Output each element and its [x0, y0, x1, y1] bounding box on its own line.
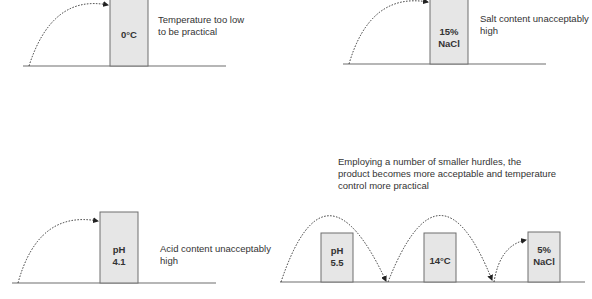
caption-combined: Employing a number of smaller hurdles, t… — [338, 156, 556, 192]
hurdle-diagram — [0, 0, 592, 299]
jump-arc — [494, 240, 526, 282]
hurdle-label-line: NaCl — [528, 256, 560, 268]
hurdle-label-temp: 14°C — [424, 255, 456, 267]
hurdle-label-ph: pH 5.5 — [321, 245, 353, 269]
jump-arc — [18, 220, 98, 283]
hurdle-label-salt-small: 5% NaCl — [528, 244, 560, 268]
hurdle-label-salt: 15% NaCl — [430, 26, 468, 50]
hurdle-label-line: pH — [100, 244, 138, 256]
hurdle-label-line: NaCl — [430, 38, 468, 50]
caption-line: Employing a number of smaller hurdles, t… — [338, 156, 556, 168]
hurdle-label-line: 15% — [430, 26, 468, 38]
jump-arc — [29, 4, 108, 66]
hurdle-label-line: 5% — [528, 244, 560, 256]
hurdle-label-line: pH — [321, 245, 353, 257]
hurdle-label-line: 14°C — [424, 255, 456, 267]
description-line: high — [480, 25, 589, 37]
description-line: Acid content unacceptably — [160, 243, 271, 255]
hurdle-label-line: 4.1 — [100, 256, 138, 268]
description-salt: Salt content unacceptably high — [480, 13, 589, 37]
caption-line: product becomes more acceptable and temp… — [338, 168, 556, 180]
jump-arc — [349, 1, 428, 64]
description-line: high — [160, 255, 271, 267]
description-temperature: Temperature too low to be practical — [158, 14, 244, 38]
description-line: to be practical — [158, 26, 244, 38]
hurdle-label-line: 0°C — [110, 29, 148, 41]
description-acid: Acid content unacceptably high — [160, 243, 271, 267]
hurdle-label-temperature: 0°C — [110, 29, 148, 41]
description-line: Temperature too low — [158, 14, 244, 26]
caption-line: control more practical — [338, 180, 556, 192]
hurdle-label-acid: pH 4.1 — [100, 244, 138, 268]
description-line: Salt content unacceptably — [480, 13, 589, 25]
hurdle-label-line: 5.5 — [321, 257, 353, 269]
